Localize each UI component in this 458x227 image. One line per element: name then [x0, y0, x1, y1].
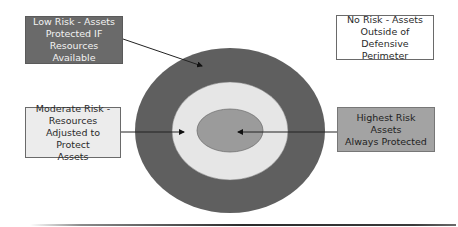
highest-risk-label-box: Highest Risk Assets Always Protected	[337, 107, 435, 152]
moderate-risk-label-line-4: Assets	[30, 151, 116, 163]
highest-risk-label-line-1: Highest Risk Assets	[342, 112, 430, 136]
low-risk-label-box: Low Risk - Assets Protected IF Resources…	[25, 16, 123, 64]
arrow-low-risk	[123, 39, 202, 66]
core-highest-risk-zone	[197, 109, 263, 152]
moderate-risk-label-line-2: Resources	[30, 115, 116, 127]
highest-risk-label-line-2: Always Protected	[342, 136, 430, 148]
moderate-risk-label-box: Moderate Risk - Resources Adjusted to Pr…	[25, 107, 121, 158]
no-risk-label-box: No Risk - Assets Outside of Defensive Pe…	[336, 15, 434, 60]
moderate-risk-label-line-3: Adjusted to Protect	[30, 127, 116, 151]
no-risk-label-line-2: Outside of Defensive	[341, 26, 429, 50]
low-risk-label-line-3: Resources Available	[30, 40, 118, 64]
low-risk-label-line-1: Low Risk - Assets	[30, 16, 118, 28]
no-risk-label-line-1: No Risk - Assets	[341, 14, 429, 26]
footer-rule	[30, 224, 456, 226]
low-risk-label-line-2: Protected IF	[30, 28, 118, 40]
no-risk-label-line-3: Perimeter	[341, 50, 429, 62]
moderate-risk-label-line-1: Moderate Risk -	[30, 103, 116, 115]
